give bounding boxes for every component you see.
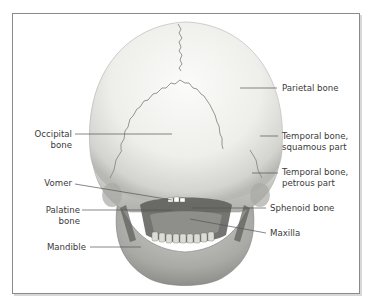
label-line: squamous part <box>282 142 348 153</box>
label-line: Temporal bone, <box>282 167 348 178</box>
label-line: Maxilla <box>270 228 300 239</box>
label-line: Parietal bone <box>282 83 338 94</box>
label-sphenoid-bone: Sphenoid bone <box>270 203 334 214</box>
label-line: Mandible <box>24 242 86 253</box>
label-maxilla: Maxilla <box>270 228 300 239</box>
label-line: petrous part <box>282 178 348 189</box>
label-line: bone <box>24 216 80 227</box>
label-vomer: Vomer <box>24 178 72 189</box>
label-line: Vomer <box>24 178 72 189</box>
label-line: Temporal bone, <box>282 131 348 142</box>
label-occipital-bone: Occipital bone <box>24 129 72 150</box>
label-line: Palatine <box>24 205 80 216</box>
label-mandible: Mandible <box>24 242 86 253</box>
label-line: Occipital <box>24 129 72 140</box>
cranium-shape <box>89 22 282 204</box>
label-line: bone <box>24 140 72 151</box>
label-temporal-petrous: Temporal bone, petrous part <box>282 167 348 188</box>
label-parietal-bone: Parietal bone <box>282 83 338 94</box>
label-line: Sphenoid bone <box>270 203 334 214</box>
label-temporal-squamous: Temporal bone, squamous part <box>282 131 348 152</box>
label-palatine-bone: Palatine bone <box>24 205 80 226</box>
